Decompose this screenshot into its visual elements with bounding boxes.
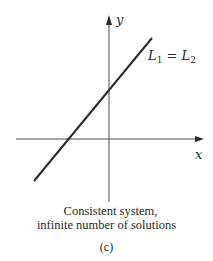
panel-label: (c)	[0, 240, 213, 255]
line-label-l1: L	[148, 48, 157, 63]
x-axis-label: x	[195, 147, 202, 162]
line-label-equals: =	[162, 48, 181, 63]
line-label-sub2: 2	[190, 55, 196, 65]
line-l1-equals-l2	[34, 38, 152, 181]
y-axis-arrow-icon	[106, 15, 112, 25]
caption-line-2: infinite number of solutions	[0, 218, 213, 232]
caption-line-1: Consistent system,	[0, 204, 213, 218]
line-label: L1 = L2	[148, 48, 196, 65]
y-axis-label: y	[116, 12, 123, 27]
line-label-l2: L	[182, 48, 191, 63]
x-axis-arrow-icon	[195, 136, 204, 142]
linear-system-figure: y x L1 = L2 Consistent system, infinite …	[0, 0, 213, 261]
